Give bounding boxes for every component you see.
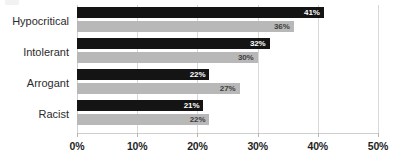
category-axis: Hypocritical Intolerant Arrogant Racist bbox=[0, 5, 73, 133]
bar-value-label: 32% bbox=[250, 40, 266, 48]
bar-group: 32%30% bbox=[77, 38, 378, 64]
x-tick-mark-2 bbox=[197, 133, 198, 137]
bar-row: 32% bbox=[77, 38, 378, 49]
x-tick-label-3: 30% bbox=[247, 141, 267, 152]
x-axis-ticks: 0%10%20%30%40%50% bbox=[77, 133, 378, 157]
x-tick-label-0: 0% bbox=[70, 141, 85, 152]
bar-value-label: 30% bbox=[238, 54, 254, 62]
x-tick-label-5: 50% bbox=[368, 141, 388, 152]
x-tick-label-1: 10% bbox=[127, 141, 147, 152]
bar-intolerant-series-dark[interactable]: 32% bbox=[77, 38, 270, 49]
x-tick-mark-0 bbox=[77, 133, 78, 137]
bar-row: 22% bbox=[77, 114, 378, 125]
bar-racist-series-light[interactable]: 22% bbox=[77, 114, 209, 125]
bar-value-label: 22% bbox=[190, 71, 206, 79]
x-tick-label-2: 20% bbox=[187, 141, 207, 152]
bar-arrogant-series-dark[interactable]: 22% bbox=[77, 69, 209, 80]
category-label-0: Hypocritical bbox=[0, 16, 69, 27]
bar-value-label: 41% bbox=[304, 9, 320, 17]
bar-row: 36% bbox=[77, 21, 378, 32]
bar-value-label: 22% bbox=[190, 116, 206, 124]
gridline-50pct bbox=[378, 5, 379, 133]
bar-groups: 41%36%32%30%22%27%21%22% bbox=[77, 5, 378, 133]
bar-arrogant-series-light[interactable]: 27% bbox=[77, 83, 240, 94]
bar-group: 21%22% bbox=[77, 100, 378, 126]
bar-chart: Hypocritical Intolerant Arrogant Racist … bbox=[0, 0, 403, 158]
bar-racist-series-dark[interactable]: 21% bbox=[77, 100, 203, 111]
bar-value-label: 27% bbox=[220, 85, 236, 93]
bar-group: 22%27% bbox=[77, 69, 378, 95]
x-tick-label-4: 40% bbox=[308, 141, 328, 152]
x-tick-mark-3 bbox=[258, 133, 259, 137]
category-label-1: Intolerant bbox=[0, 47, 69, 58]
bar-hypocritical-series-light[interactable]: 36% bbox=[77, 21, 294, 32]
plot-area: 41%36%32%30%22%27%21%22% bbox=[77, 5, 378, 133]
x-tick-mark-5 bbox=[378, 133, 379, 137]
bar-value-label: 21% bbox=[184, 102, 200, 110]
bar-row: 41% bbox=[77, 7, 378, 18]
bar-group: 41%36% bbox=[77, 7, 378, 33]
bar-row: 27% bbox=[77, 83, 378, 94]
x-tick-mark-4 bbox=[318, 133, 319, 137]
category-label-3: Racist bbox=[0, 109, 69, 120]
bar-hypocritical-series-dark[interactable]: 41% bbox=[77, 7, 324, 18]
bar-value-label: 36% bbox=[274, 23, 290, 31]
x-tick-mark-1 bbox=[137, 133, 138, 137]
bar-intolerant-series-light[interactable]: 30% bbox=[77, 52, 258, 63]
bar-row: 30% bbox=[77, 52, 378, 63]
bar-row: 21% bbox=[77, 100, 378, 111]
bar-row: 22% bbox=[77, 69, 378, 80]
category-label-2: Arrogant bbox=[0, 78, 69, 89]
